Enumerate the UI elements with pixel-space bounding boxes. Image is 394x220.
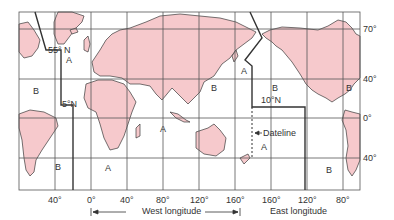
lat-label-0: 0° xyxy=(363,114,372,123)
lon-label-120w: 120° xyxy=(298,196,317,205)
indonesia xyxy=(170,112,190,122)
zone-label-55n: 55° N xyxy=(48,46,71,55)
east-longitude-label: East longitude xyxy=(270,207,327,216)
lon-label-160w: 160° xyxy=(262,196,281,205)
new-zealand xyxy=(240,154,250,164)
zone-label-a-north-pacific: A xyxy=(241,67,247,76)
lon-label-80e: 80° xyxy=(156,196,170,205)
zone-label-10n: 10°N xyxy=(261,96,281,105)
lat-label-40s: 40° xyxy=(363,154,377,163)
lon-label-160e: 160° xyxy=(226,196,245,205)
zone-label-a-south-pacific: A xyxy=(261,143,267,152)
greenland xyxy=(54,12,84,44)
lon-label-120e: 120° xyxy=(190,196,209,205)
zone-label-a-atlantic: A xyxy=(66,56,72,65)
zone-label-a-indian: A xyxy=(160,125,166,134)
lon-label-80w: 80° xyxy=(336,196,350,205)
lon-label-40e: 40° xyxy=(120,196,134,205)
zone-label-b-south-atlantic: B xyxy=(55,163,61,172)
zone-label-b-asia: B xyxy=(211,84,217,93)
landmasses xyxy=(19,12,360,176)
lat-label-70: 70° xyxy=(363,25,377,34)
canada-west-fragment xyxy=(19,22,40,58)
west-longitude-label: West longitude xyxy=(142,207,201,216)
australia xyxy=(196,124,226,156)
zone-label-a-south: A xyxy=(105,164,111,173)
africa xyxy=(84,80,136,150)
zone-label-b-pacific: B xyxy=(272,84,278,93)
lon-label-40w: 40° xyxy=(48,196,62,205)
zone-label-b-south-pacific: B xyxy=(326,166,332,175)
south-america xyxy=(19,110,58,176)
zone-label-b-east: B xyxy=(346,84,352,93)
world-zone-map xyxy=(0,0,394,220)
zone-label-b-atlantic: B xyxy=(33,87,39,96)
zone-label-5n: 5°N xyxy=(62,100,77,109)
lon-label-0: 0° xyxy=(87,196,96,205)
lat-label-40n: 40° xyxy=(363,75,377,84)
britain xyxy=(84,36,90,52)
dateline-label: Dateline xyxy=(263,129,296,138)
south-america-east xyxy=(342,110,360,176)
madagascar xyxy=(136,124,140,138)
